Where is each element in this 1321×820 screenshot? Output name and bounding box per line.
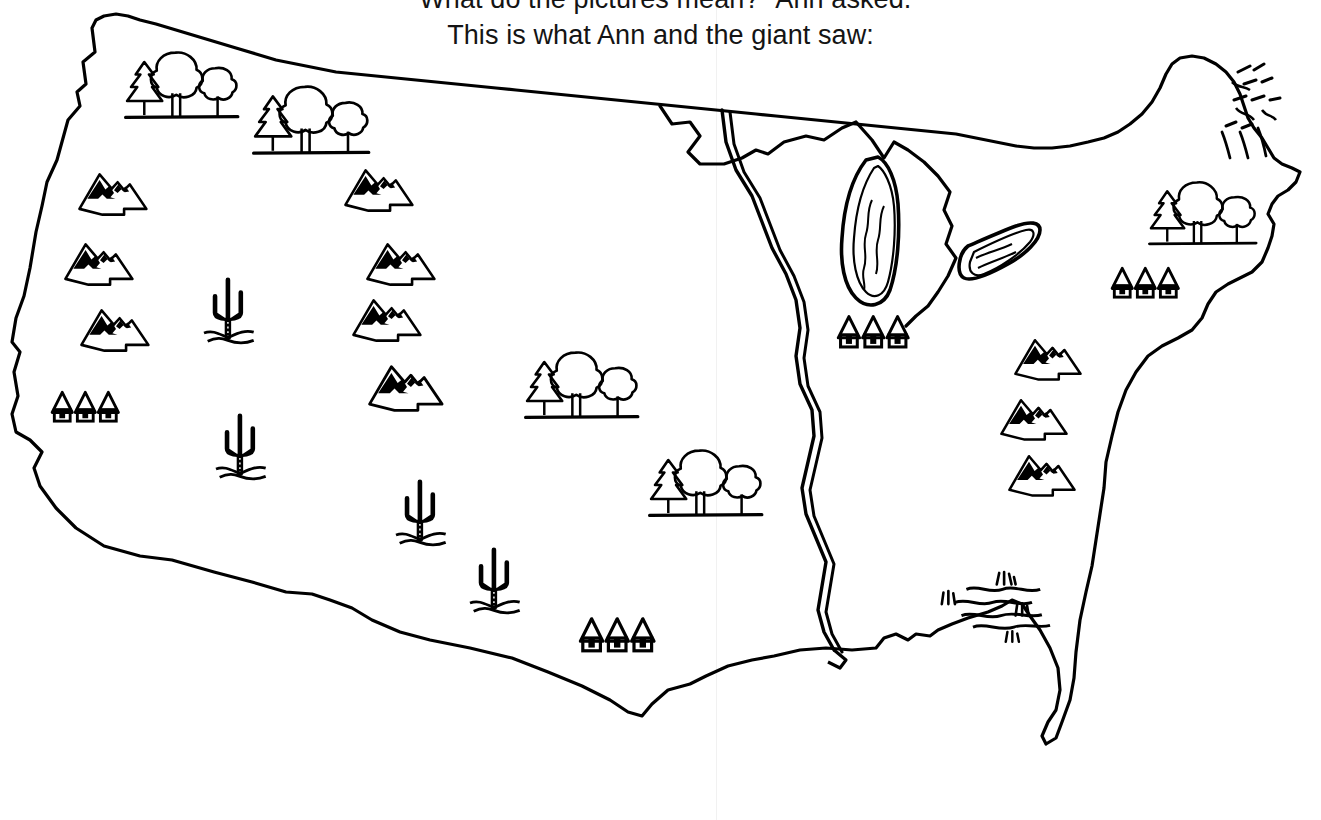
worksheet-page: "What do the pictures mean?" Ann asked. … — [0, 0, 1321, 820]
us-outline-map — [0, 0, 1321, 820]
map-symbol-trees-central-plains — [526, 352, 638, 417]
map-symbol-houses-northeast — [1112, 268, 1178, 297]
map-symbol-mountains-rockies-3 — [353, 300, 420, 340]
map-symbol-trees-new-england — [1149, 182, 1256, 244]
story-line-question: "What do the pictures mean?" Ann asked. — [0, 0, 1321, 15]
map-symbol-mountains-rockies-4 — [370, 367, 443, 411]
map-symbol-houses-west-coast — [52, 392, 118, 421]
map-symbol-houses-great-lakes — [838, 317, 908, 347]
map-symbol-mountains-appalachian-1 — [1015, 340, 1080, 379]
map-symbol-trees-pacific-northwest — [126, 52, 238, 117]
story-line-caption: This is what Ann and the giant saw: — [0, 20, 1321, 51]
map-symbol-houses-southern-plains — [580, 619, 654, 651]
map-symbol-cactus-1 — [204, 280, 254, 343]
map-symbol-mountains-appalachian-2 — [1001, 400, 1066, 439]
map-symbol-cactus-3 — [396, 482, 446, 545]
map-symbol-mountains-appalachian-3 — [1009, 456, 1074, 495]
map-symbol-trees-ozarks — [650, 450, 762, 515]
mississippi-river — [722, 110, 846, 668]
scan-seam — [716, 0, 717, 820]
map-symbol-cactus-2 — [216, 416, 266, 479]
map-symbol-trees-northern-rockies — [254, 87, 369, 154]
map-symbol-mountains-west-1 — [79, 174, 146, 214]
country-outline — [12, 14, 1300, 744]
map-symbol-mountains-rockies-2 — [367, 244, 434, 284]
map-symbol-mountains-west-2 — [65, 244, 132, 284]
map-symbol-mountains-rockies-1 — [345, 170, 412, 210]
map-symbol-cactus-4 — [470, 550, 520, 613]
map-symbol-mountains-west-3 — [81, 310, 148, 350]
